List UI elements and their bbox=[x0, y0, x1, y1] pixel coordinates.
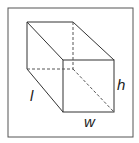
label-height: h bbox=[117, 76, 125, 93]
edge-top-left-depth bbox=[27, 22, 63, 60]
prism-diagram: l h w bbox=[0, 0, 139, 143]
label-width: w bbox=[84, 113, 96, 130]
label-length: l bbox=[30, 87, 34, 104]
front-face bbox=[63, 60, 114, 112]
edge-top-right-depth bbox=[73, 22, 114, 60]
hidden-edge-depth bbox=[73, 69, 114, 112]
